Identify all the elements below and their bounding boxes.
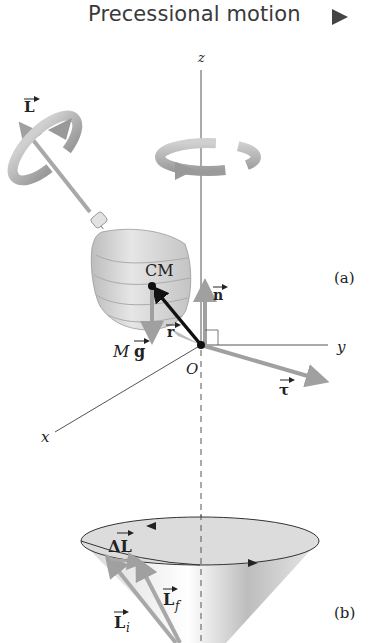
z-axis-label: z (197, 50, 205, 65)
CM-label: CM (145, 261, 174, 280)
panel-a-label: (a) (334, 269, 355, 287)
weight-M-label: M (112, 342, 130, 361)
L-final-label: L (163, 590, 174, 609)
origin-label: O (186, 360, 198, 378)
panel-b-label: (b) (334, 604, 355, 622)
L-label: L (24, 98, 35, 116)
n-label: n (213, 287, 223, 303)
origin-point (197, 341, 205, 349)
L-initial-subscript: i (126, 621, 130, 635)
r-label: r (167, 324, 175, 340)
precession-rotation-arrow-icon (160, 143, 256, 180)
tau-label: τ (279, 381, 289, 399)
weight-g-label: g (134, 342, 145, 361)
spin-rotation-arrow-icon (3, 106, 88, 191)
torque-vector (201, 345, 318, 379)
precession-diagram: z y x L CM r M g n (0, 0, 377, 643)
x-axis-label: x (41, 428, 50, 446)
delta-L-label: ΔL (108, 537, 132, 556)
L-initial-label: L (114, 613, 125, 632)
center-of-mass-point (148, 282, 156, 290)
y-axis-label: y (336, 338, 346, 356)
